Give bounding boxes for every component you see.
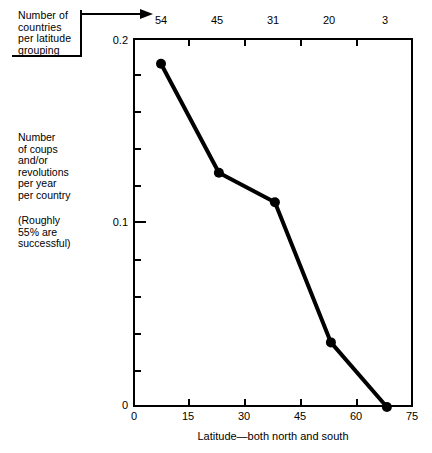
y-axis-tick-label: 0.2 bbox=[100, 34, 128, 46]
top-axis-tick-label: 3 bbox=[382, 14, 388, 26]
x-axis-tick bbox=[244, 399, 246, 407]
top-axis-tick bbox=[300, 38, 302, 46]
y-axis-major-tick bbox=[133, 221, 146, 223]
x-axis-tick-label: 15 bbox=[182, 410, 194, 422]
y-axis-note: (Roughly 55% are successful) bbox=[18, 215, 126, 250]
y-axis-minor-tick bbox=[133, 296, 141, 298]
x-axis-tick bbox=[356, 399, 358, 407]
top-axis-tick-label: 20 bbox=[323, 14, 335, 26]
chart-figure: Number of countries per latitude groupin… bbox=[0, 0, 432, 453]
y-axis-minor-tick bbox=[133, 185, 141, 187]
y-axis-minor-tick bbox=[133, 148, 141, 150]
top-axis-tick bbox=[244, 38, 246, 46]
y-axis-minor-tick bbox=[133, 259, 141, 261]
y-axis-minor-tick bbox=[133, 74, 141, 76]
x-axis-tick-label: 75 bbox=[406, 410, 418, 422]
x-axis-tick bbox=[188, 399, 190, 407]
y-axis-title: Number of coups and/or revolutions per y… bbox=[18, 132, 126, 202]
plot-frame bbox=[133, 38, 413, 407]
x-axis-tick-label: 45 bbox=[294, 410, 306, 422]
x-axis-tick-label: 30 bbox=[238, 410, 250, 422]
y-axis-minor-tick bbox=[133, 370, 141, 372]
x-axis-tick-label: 60 bbox=[350, 410, 362, 422]
top-axis-tick bbox=[188, 38, 190, 46]
top-axis-tick-label: 54 bbox=[155, 14, 167, 26]
y-axis-minor-tick bbox=[133, 333, 141, 335]
x-axis-tick-label: 0 bbox=[131, 410, 137, 422]
y-axis-minor-tick bbox=[133, 111, 141, 113]
top-axis-tick-label: 45 bbox=[211, 14, 223, 26]
top-axis-tick-label: 31 bbox=[267, 14, 279, 26]
x-axis-title: Latitude—both north and south bbox=[133, 430, 413, 442]
x-axis-tick bbox=[300, 399, 302, 407]
y-axis-tick-label: 0 bbox=[100, 399, 128, 411]
top-axis-tick bbox=[356, 38, 358, 46]
